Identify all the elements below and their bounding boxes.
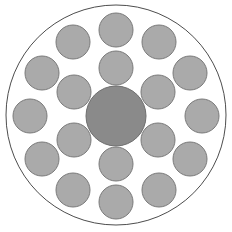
outer-ring-circle-12	[56, 25, 90, 59]
cross-section-diagram	[0, 0, 232, 232]
outer-ring-circle-5	[173, 142, 207, 176]
outer-ring-circle-7	[99, 185, 133, 219]
inner-ring-circle-4	[99, 147, 133, 181]
outer-ring-circle-2	[142, 25, 176, 59]
inner-ring-circle-1	[99, 51, 133, 85]
inner-ring-circle-6	[57, 75, 91, 109]
outer-ring-circle-6	[142, 173, 176, 207]
inner-ring-circle-5	[57, 123, 91, 157]
outer-ring-circle-10	[13, 99, 47, 133]
core-group	[86, 86, 146, 146]
inner-ring-circle-3	[141, 123, 175, 157]
outer-ring-circle-11	[25, 56, 59, 90]
cross-section-canvas	[0, 0, 232, 232]
outer-ring-circle-3	[173, 56, 207, 90]
outer-ring-circle-1	[99, 13, 133, 47]
inner-ring-circle-2	[141, 75, 175, 109]
outer-ring-circle-8	[56, 173, 90, 207]
outer-ring-circle-4	[185, 99, 219, 133]
outer-ring-circle-9	[25, 142, 59, 176]
core-circle-1	[86, 86, 146, 146]
